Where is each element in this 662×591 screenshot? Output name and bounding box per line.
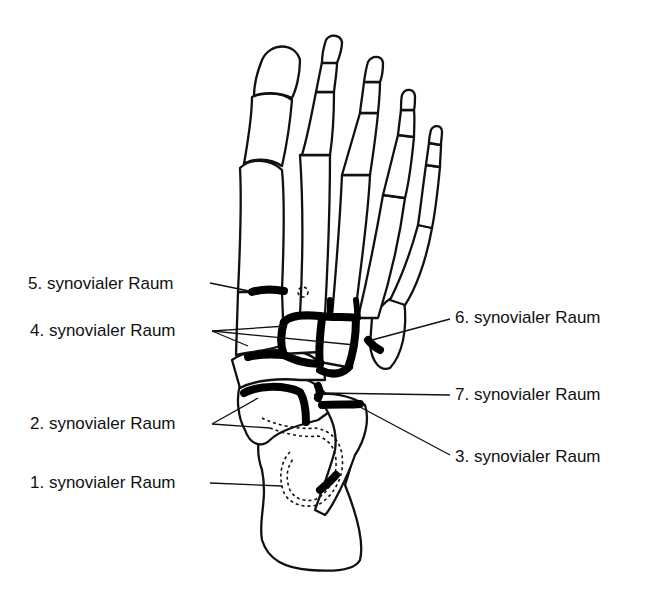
second-metatarsal <box>300 155 330 315</box>
label-synovial-space-2: 2. synovialer Raum <box>30 414 176 434</box>
synovial-space-7 <box>318 386 320 398</box>
label-synovial-space-4: 4. synovialer Raum <box>30 321 176 341</box>
foot-diagram: 5. synovialer Raum 4. synovialer Raum 2.… <box>0 0 662 591</box>
label-synovial-space-7: 7. synovialer Raum <box>455 385 601 405</box>
toe2-proximal <box>302 92 334 155</box>
toe2-middle <box>316 62 337 92</box>
toe3-distal <box>364 57 383 82</box>
hallux-distal-phalanx <box>254 47 300 99</box>
hallux-proximal-phalanx <box>244 94 292 166</box>
label-synovial-space-3: 3. synovialer Raum <box>455 447 601 467</box>
toe4-distal <box>401 90 415 110</box>
toe5-proximal <box>418 165 440 228</box>
foot-skeleton-illustration <box>0 0 662 591</box>
leader-3 <box>360 407 450 455</box>
toe5-distal <box>429 126 442 145</box>
toe3-proximal <box>342 113 378 175</box>
synovial-space-4-g <box>356 300 358 318</box>
label-synovial-space-1: 1. synovialer Raum <box>30 473 176 493</box>
first-metatarsal <box>238 161 284 292</box>
label-synovial-space-6: 6. synovialer Raum <box>455 308 601 328</box>
medial-cuneiform <box>236 292 284 355</box>
toe4-proximal <box>383 135 414 198</box>
synovial-space-3 <box>322 404 360 405</box>
synovial-space-5 <box>252 290 284 292</box>
toe5-middle <box>426 143 441 167</box>
toe3-middle <box>360 82 380 113</box>
label-synovial-space-5: 5. synovialer Raum <box>28 274 174 294</box>
toe2-distal <box>322 36 342 63</box>
toe4-middle <box>398 110 414 137</box>
